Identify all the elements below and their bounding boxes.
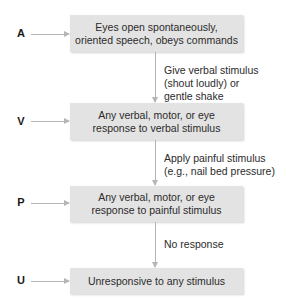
level-text-line: Unresponsive to any stimulus <box>88 275 225 288</box>
note-line: (shout loudly) or <box>164 77 259 90</box>
transition-note-v-p: Apply painful stimulus (e.g., nail bed p… <box>164 152 275 178</box>
level-text-line: Eyes open spontaneously, <box>75 21 238 34</box>
arrow-right-icon <box>31 281 69 282</box>
note-line: (e.g., nail bed pressure) <box>164 165 275 178</box>
note-line: Apply painful stimulus <box>164 152 275 165</box>
arrow-down-icon <box>155 140 156 185</box>
level-text-line: oriented speech, obeys commands <box>75 34 238 47</box>
level-letter-p: P <box>15 196 27 208</box>
note-line: Give verbal stimulus <box>164 64 259 77</box>
level-box-alert: Eyes open spontaneously, oriented speech… <box>70 15 243 52</box>
level-box-unresponsive: Unresponsive to any stimulus <box>70 268 243 294</box>
arrow-right-icon <box>31 121 69 122</box>
level-text-line: response to painful stimulus <box>91 204 221 217</box>
level-text-line: Any verbal, motor, or eye <box>93 109 221 122</box>
arrow-right-icon <box>31 34 69 35</box>
arrow-down-icon <box>155 222 156 267</box>
level-box-verbal: Any verbal, motor, or eye response to ve… <box>70 103 243 140</box>
level-letter-v: V <box>15 115 27 127</box>
level-box-pain: Any verbal, motor, or eye response to pa… <box>70 186 243 222</box>
arrow-right-icon <box>31 203 69 204</box>
level-letter-u: U <box>15 274 27 286</box>
note-line: gentle shake <box>164 90 259 103</box>
level-text-line: response to verbal stimulus <box>93 122 221 135</box>
transition-note-p-u: No response <box>164 238 224 251</box>
note-line: No response <box>164 238 224 251</box>
level-letter-a: A <box>15 27 27 39</box>
level-text-line: Any verbal, motor, or eye <box>91 191 221 204</box>
transition-note-a-v: Give verbal stimulus (shout loudly) or g… <box>164 64 259 103</box>
arrow-down-icon <box>155 52 156 102</box>
